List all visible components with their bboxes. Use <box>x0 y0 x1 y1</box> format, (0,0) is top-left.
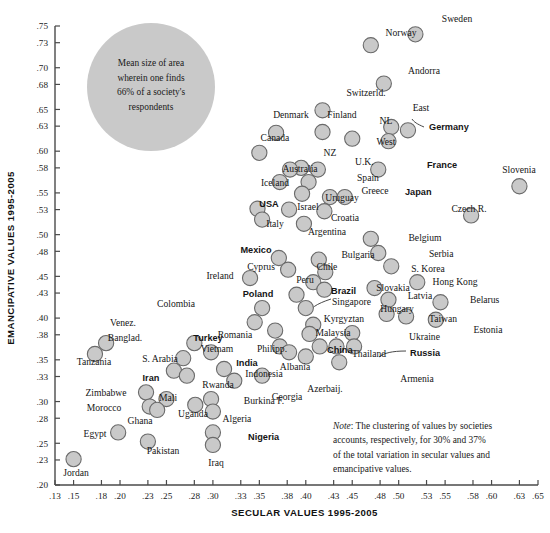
label-jordan: Jordan <box>63 467 89 478</box>
data-point-belgium[interactable] <box>363 231 378 246</box>
label-albania: Albania <box>280 361 311 372</box>
label-rwanda: Rwanda <box>202 379 234 390</box>
label-norway: Norway <box>386 27 417 38</box>
data-point-cyprus[interactable] <box>281 262 296 277</box>
y-tick-label: .55 <box>37 188 49 198</box>
data-point-rwanda[interactable] <box>179 368 194 383</box>
data-point-jordan[interactable] <box>66 452 81 467</box>
label-spain: Spain <box>357 172 379 183</box>
data-point-hong-kong[interactable] <box>410 275 425 290</box>
label-sweden: Sweden <box>442 13 473 24</box>
label-venez: Venez. <box>110 317 136 328</box>
label-iceland: Iceland <box>261 177 289 188</box>
x-tick-label: .33 <box>235 491 247 501</box>
data-point-canada[interactable] <box>252 145 267 160</box>
y-tick-label: .33 <box>37 372 49 382</box>
reference-bubble-line: respondents <box>129 102 174 112</box>
label-singapore: Singapore <box>332 296 371 307</box>
data-point-egypt[interactable] <box>111 425 126 440</box>
y-tick-label: .23 <box>37 455 49 465</box>
label-uganda: Uganda <box>178 408 209 419</box>
label-israel: Israel <box>297 201 319 212</box>
label-brazil: Brazil <box>331 286 356 296</box>
y-tick-label: .48 <box>37 247 49 257</box>
data-point-belarus[interactable] <box>433 295 448 310</box>
y-tick-label: .40 <box>37 313 49 323</box>
label-indonesia: Indonesia <box>245 368 283 379</box>
data-point-germany[interactable] <box>400 123 415 138</box>
x-tick-label: .58 <box>467 491 479 501</box>
x-tick-label: .55 <box>439 491 451 501</box>
y-tick-label: .45 <box>37 272 49 282</box>
data-point-brazil[interactable] <box>317 282 332 297</box>
label-finland: Finland <box>327 109 357 120</box>
data-point-zimbabwe[interactable] <box>138 385 153 400</box>
note-text: : The clustering of values by societies <box>351 421 493 431</box>
label-armenia: Armenia <box>400 373 434 384</box>
x-tick-label: .35 <box>253 491 265 501</box>
data-point-iraq[interactable] <box>205 437 220 452</box>
data-point-china[interactable] <box>312 339 327 354</box>
label-cyprus: Cyprus <box>247 261 275 272</box>
label-greece: Greece <box>361 185 388 196</box>
y-tick-label: .73 <box>37 38 49 48</box>
label-estonia: Estonia <box>474 324 504 335</box>
data-point-poland[interactable] <box>289 287 304 302</box>
data-point-venez[interactable] <box>247 315 262 330</box>
label-west: West <box>377 136 396 147</box>
data-point-armenia[interactable] <box>332 355 347 370</box>
label-india: India <box>236 358 258 368</box>
y-tick-label: .65 <box>37 105 49 115</box>
x-tick-label: .18 <box>96 491 108 501</box>
note-lead: Note <box>332 421 351 431</box>
label-andorra: Andorra <box>408 65 441 76</box>
y-tick-label: .68 <box>37 80 49 90</box>
note-line: accounts, respectively, for 30% and 37% <box>333 435 486 445</box>
label-nz: NZ <box>324 147 337 158</box>
y-tick-label: .70 <box>37 63 49 73</box>
y-axis-title: EMANCIPATIVE VALUES 1995-2005 <box>5 171 16 345</box>
x-tick-label: .15 <box>68 491 80 501</box>
data-point-nl[interactable] <box>345 131 360 146</box>
data-point-croatia[interactable] <box>317 204 332 219</box>
x-tick-label: .20 <box>114 491 126 501</box>
label-nigeria: Nigeria <box>248 432 280 442</box>
label-latvia: Latvia <box>408 290 433 301</box>
x-tick-label: .63 <box>514 491 526 501</box>
label-morocco: Morocco <box>87 402 122 413</box>
label-zimbabwe: Zimbabwe <box>85 387 126 398</box>
y-tick-label: .50 <box>37 230 49 240</box>
label-serbia: Serbia <box>429 248 454 259</box>
label-ireland: Ireland <box>206 270 233 281</box>
label-germany: Germany <box>429 122 470 132</box>
y-tick-label: .28 <box>37 414 49 424</box>
data-point-colombia[interactable] <box>255 300 270 315</box>
label-colombia: Colombia <box>157 298 196 309</box>
data-point-israel[interactable] <box>281 202 296 217</box>
label-tanzania: Tanzania <box>77 356 112 367</box>
y-tick-label: .53 <box>37 205 49 215</box>
data-point-s-korea[interactable] <box>384 259 399 274</box>
reference-bubble-line: Mean size of area <box>118 58 185 68</box>
data-point-uruguay[interactable] <box>294 186 309 201</box>
y-tick-label: .25 <box>37 439 49 449</box>
data-point-ireland[interactable] <box>242 270 257 285</box>
y-tick-label: .63 <box>37 121 49 131</box>
data-point-s-arabia[interactable] <box>176 351 191 366</box>
reference-bubble-line: wherein one finds <box>117 73 185 83</box>
note-line: emancipative values. <box>333 464 412 474</box>
data-point-singapore[interactable] <box>298 300 313 315</box>
data-point-slovenia[interactable] <box>512 179 527 194</box>
data-point-romania[interactable] <box>268 323 283 338</box>
y-tick-label: .60 <box>37 146 49 156</box>
label-malaysia: Malaysia <box>315 327 351 338</box>
x-tick-label: .43 <box>328 491 340 501</box>
label-romania: Romania <box>218 329 253 340</box>
data-point-norway[interactable] <box>363 38 378 53</box>
label-iran: Iran <box>143 373 160 383</box>
label-s-arabia: S. Arabia <box>142 353 178 364</box>
x-tick-label: .30 <box>207 491 219 501</box>
label-france: France <box>427 160 457 170</box>
data-point-finland[interactable] <box>315 124 330 139</box>
label-switzerld: Switzerld. <box>346 87 385 98</box>
